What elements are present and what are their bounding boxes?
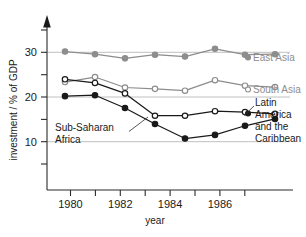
y-tick-label-20: 20 bbox=[25, 91, 37, 103]
y-tick-label-10: 10 bbox=[25, 136, 37, 148]
datapoint-sub-saharan-africa-1984 bbox=[182, 136, 187, 141]
datapoint-sub-saharan-africa-1980 bbox=[62, 93, 67, 98]
series-label-sub-saharan-africa-line2: Africa bbox=[55, 134, 81, 145]
series-label-east-asia: East Asia bbox=[253, 52, 295, 63]
series-label-south-asia: South Asia bbox=[253, 84, 301, 95]
datapoint-south-asia-1982 bbox=[122, 85, 127, 90]
series-sub-saharan-africa bbox=[62, 93, 277, 142]
series-label-latin-america-line4: Caribbean bbox=[255, 133, 301, 144]
series-label-latin-america-line1: Latin bbox=[255, 97, 277, 108]
x-tick-label-1986: 1986 bbox=[208, 198, 232, 210]
legend-marker-east-asia bbox=[246, 55, 251, 60]
series-label-latin-america-line2: America bbox=[255, 109, 292, 120]
datapoint-east-asia-1982 bbox=[122, 56, 127, 61]
x-axis bbox=[47, 190, 293, 196]
datapoint-east-asia-1985 bbox=[212, 46, 217, 51]
datapoint-latin-america-and-the-caribbean-1985 bbox=[212, 108, 217, 113]
datapoint-latin-america-and-the-caribbean-1984 bbox=[182, 113, 187, 118]
y-axis-title: investment / % of GDP bbox=[8, 59, 19, 160]
datapoint-latin-america-and-the-caribbean-1980 bbox=[62, 77, 67, 82]
leader-line-sub-saharan-africa bbox=[129, 117, 148, 132]
y-axis bbox=[41, 15, 51, 190]
chart-container: 30 20 10 1980 1982 1984 1986 year invest… bbox=[0, 0, 306, 237]
x-tick-label-1982: 1982 bbox=[108, 198, 132, 210]
datapoint-sub-saharan-africa-1985 bbox=[212, 132, 217, 137]
datapoint-sub-saharan-africa-1983 bbox=[152, 121, 157, 126]
series-label-sub-saharan-africa-line1: Sub-Saharan bbox=[55, 122, 114, 133]
datapoint-latin-america-and-the-caribbean-1981 bbox=[92, 80, 97, 85]
datapoint-east-asia-1984 bbox=[182, 54, 187, 59]
datapoint-east-asia-1981 bbox=[92, 52, 97, 57]
x-axis-title: year bbox=[145, 215, 165, 226]
datapoint-south-asia-1984 bbox=[182, 88, 187, 93]
datapoint-south-asia-1981 bbox=[92, 74, 97, 79]
series-label-latin-america: Latin America and the Caribbean bbox=[255, 97, 301, 144]
y-tick-label-30: 30 bbox=[25, 46, 37, 58]
datapoint-latin-america-and-the-caribbean-1983 bbox=[152, 113, 157, 118]
datapoint-latin-america-and-the-caribbean-1982 bbox=[122, 91, 127, 96]
y-axis-arrowhead bbox=[43, 15, 51, 28]
series-label-latin-america-line3: and the bbox=[255, 121, 289, 132]
datapoint-east-asia-1980 bbox=[62, 49, 67, 54]
datapoint-sub-saharan-africa-1986 bbox=[242, 123, 247, 128]
x-tick-label-1980: 1980 bbox=[58, 198, 82, 210]
line-chart: 30 20 10 1980 1982 1984 1986 year invest… bbox=[0, 0, 306, 237]
datapoint-east-asia-1983 bbox=[152, 52, 157, 57]
datapoint-south-asia-1983 bbox=[152, 86, 157, 91]
datapoint-sub-saharan-africa-1982 bbox=[122, 105, 127, 110]
datapoint-sub-saharan-africa-1981 bbox=[92, 93, 97, 98]
datapoint-south-asia-1985 bbox=[212, 78, 217, 83]
legend-marker-south-asia bbox=[246, 87, 251, 92]
x-tick-label-1984: 1984 bbox=[158, 198, 182, 210]
